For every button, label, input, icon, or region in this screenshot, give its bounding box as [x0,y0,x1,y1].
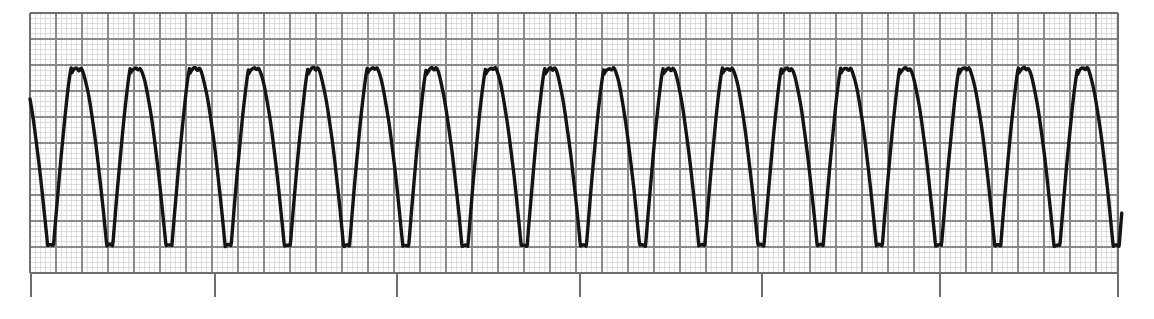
ecg-plot-area [0,0,1154,319]
paper-background [0,0,1154,319]
ecg-rhythm-strip [0,0,1154,319]
